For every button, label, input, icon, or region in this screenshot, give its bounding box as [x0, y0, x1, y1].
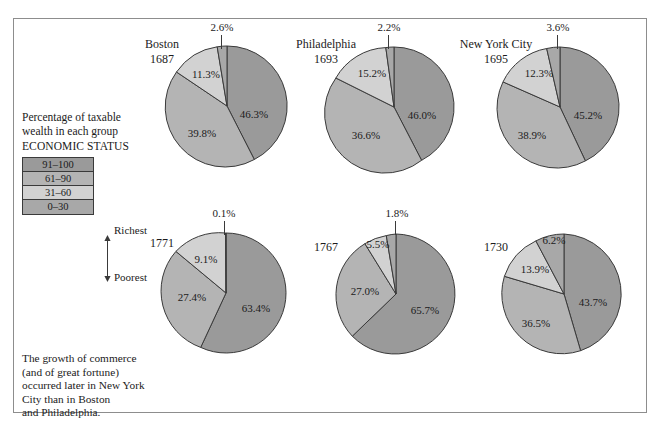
pie-label-61-90: 39.8% — [188, 127, 216, 139]
caption-line-5: and Philadelphia. — [22, 406, 192, 420]
leader-line-0-30 — [395, 221, 396, 235]
pie-label-0-30: 2.6% — [211, 21, 234, 33]
pie-title-boston-1771: 1771 — [114, 236, 210, 251]
leader-line-0-30 — [557, 35, 558, 49]
pie-label-61-90: 27.4% — [178, 291, 206, 303]
legend-swatch-61-90: 61–90 — [23, 172, 93, 186]
pie-city-label: Boston — [114, 37, 210, 52]
legend-swatch-31-60: 31–60 — [23, 186, 93, 200]
rank-arrow-group: Richest Poorest — [98, 224, 156, 284]
pie-label-31-60: 5.5% — [367, 238, 390, 250]
legend-description-line-2: wealth in each group — [22, 125, 157, 139]
pie-label-91-100: 63.4% — [242, 302, 270, 314]
pie-title-philadelphia-1693: Philadelphia 1693 — [276, 37, 376, 66]
pie-label-31-60: 11.3% — [192, 68, 220, 80]
legend-heading: ECONOMIC STATUS — [22, 139, 157, 154]
pie-year-label: 1730 — [444, 240, 548, 255]
pie-label-61-90: 36.5% — [522, 317, 550, 329]
leader-line-0-30 — [388, 35, 389, 49]
legend: Percentage of taxable wealth in each gro… — [22, 111, 157, 215]
pie-label-31-60: 12.3% — [525, 67, 553, 79]
pie-year-label: 1771 — [114, 236, 210, 251]
pie-chart-new-york-city-1695: New York City 1695 45.2% 38.9% 12.3% 3.6… — [492, 33, 642, 183]
legend-swatch-0-30: 0–30 — [23, 200, 93, 214]
pie-label-91-100: 46.3% — [240, 108, 268, 120]
caption-line-4: City than in Boston — [22, 393, 192, 407]
pie-city-label: New York City — [444, 37, 548, 52]
pie-label-61-90: 27.0% — [351, 285, 379, 297]
pie-title-new-york-city-1695: New York City 1695 — [444, 37, 548, 66]
pie-label-91-100: 65.7% — [411, 304, 439, 316]
pie-label-0-30: 3.6% — [547, 21, 570, 33]
pie-chart-new-york-city-1730: 1730 43.7% 36.5% 13.9% 6.2% — [492, 218, 642, 368]
pie-title-philadelphia-1767: 1767 — [276, 240, 376, 255]
pie-label-91-100: 45.2% — [574, 109, 602, 121]
legend-description-line-1: Percentage of taxable — [22, 111, 157, 125]
legend-richest-label: Richest — [114, 224, 147, 236]
pie-year-label: 1767 — [276, 240, 376, 255]
pie-label-0-30: 2.2% — [378, 21, 401, 33]
pie-city-label: Philadelphia — [276, 37, 376, 52]
pie-label-91-100: 46.0% — [408, 109, 436, 121]
pie-year-label: 1695 — [444, 52, 548, 67]
pie-label-61-90: 36.6% — [352, 129, 380, 141]
pie-label-31-60: 15.2% — [358, 67, 386, 79]
caption-line-3: occurred later in New York — [22, 379, 192, 393]
pie-year-label: 1687 — [114, 52, 210, 67]
pie-label-0-30: 0.1% — [213, 207, 236, 219]
pie-label-0-30: 6.2% — [543, 234, 566, 246]
figure-frame: Percentage of taxable wealth in each gro… — [13, 18, 647, 413]
double-arrow-icon — [103, 235, 112, 282]
legend-swatch-list: 91–100 61–90 31–60 0–30 — [22, 157, 94, 215]
pie-label-91-100: 43.7% — [579, 296, 607, 308]
pie-label-31-60: 9.1% — [195, 253, 218, 265]
pie-label-61-90: 38.9% — [518, 129, 546, 141]
pie-title-boston-1687: Boston 1687 — [114, 37, 210, 66]
leader-line-0-30 — [224, 221, 225, 235]
legend-poorest-label: Poorest — [114, 271, 147, 283]
pie-label-31-60: 13.9% — [521, 263, 549, 275]
pie-label-0-30: 1.8% — [386, 207, 409, 219]
pie-year-label: 1693 — [276, 52, 376, 67]
pie-title-new-york-city-1730: 1730 — [444, 240, 548, 255]
leader-line-0-30 — [221, 35, 222, 49]
legend-swatch-91-100: 91–100 — [23, 158, 93, 172]
